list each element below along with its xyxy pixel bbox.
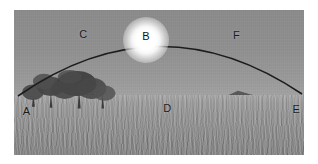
label-f: F — [233, 30, 240, 41]
label-b: B — [142, 31, 150, 42]
label-d: D — [163, 103, 171, 114]
landscape-photograph: A B C D E F — [14, 10, 304, 155]
label-c: C — [79, 29, 87, 40]
image-frame: A B C D E F — [0, 0, 318, 164]
label-e: E — [292, 104, 300, 115]
label-a: A — [23, 106, 31, 117]
